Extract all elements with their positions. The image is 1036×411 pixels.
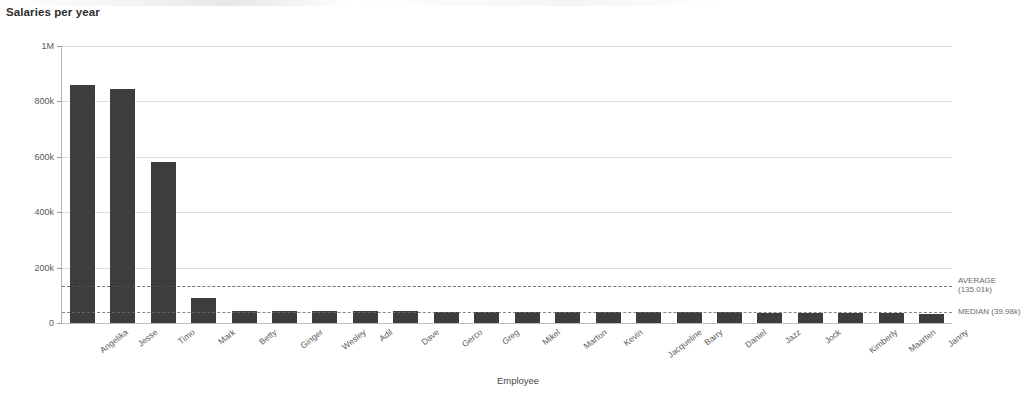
- x-axis-category-label: Maarten: [907, 327, 938, 354]
- x-axis-category-label: Mikel: [540, 327, 562, 347]
- gridline: [62, 46, 952, 47]
- y-axis-tick-label: 0: [18, 318, 54, 328]
- x-axis-category-label: Daniel: [743, 327, 768, 350]
- gridline: [62, 101, 952, 102]
- chart-plot-area: [62, 46, 952, 323]
- x-axis-category-label: Kevin: [621, 327, 644, 348]
- reference-label-text: AVERAGE: [958, 276, 996, 286]
- x-axis-category-label: Greg: [500, 327, 521, 347]
- x-axis-category-label: Jesse: [136, 327, 160, 349]
- bar[interactable]: [110, 89, 135, 323]
- bar[interactable]: [474, 312, 499, 323]
- x-axis-category-label: Barry: [702, 327, 724, 347]
- reference-line-median: [62, 312, 952, 313]
- x-axis-category-label: Angelika: [98, 327, 130, 355]
- y-axis-tick-mark: [57, 268, 62, 269]
- bar[interactable]: [798, 313, 823, 323]
- bar[interactable]: [515, 312, 540, 323]
- y-axis-tick-label: 400k: [18, 207, 54, 217]
- y-axis-tick-mark: [57, 323, 62, 324]
- bar[interactable]: [151, 162, 176, 323]
- x-axis-category-label: Adil: [377, 327, 394, 344]
- x-axis-category-label: Marton: [582, 327, 609, 351]
- x-axis-category-label: Wesley: [340, 327, 368, 352]
- reference-line-label-median: MEDIAN (39.98k): [958, 307, 1021, 317]
- x-axis-category-label: Betty: [257, 327, 278, 347]
- reference-label-text: MEDIAN (39.98k): [958, 307, 1021, 317]
- gridline: [62, 323, 952, 324]
- bar[interactable]: [70, 85, 95, 323]
- gridline: [62, 212, 952, 213]
- bar[interactable]: [677, 312, 702, 323]
- x-axis-category-label: Jacqueline: [666, 327, 704, 360]
- bar[interactable]: [757, 313, 782, 323]
- x-axis-category-label: Ginger: [299, 327, 325, 351]
- y-axis-tick-label: 1M: [18, 41, 54, 51]
- bar[interactable]: [434, 312, 459, 323]
- bar[interactable]: [717, 312, 742, 323]
- y-axis-tick-mark: [57, 46, 62, 47]
- reference-line-average: [62, 286, 952, 287]
- bar[interactable]: [879, 313, 904, 323]
- x-axis-category-label: Mark: [216, 327, 237, 347]
- reference-line-label-average: AVERAGE(135.01k): [958, 276, 996, 295]
- bar[interactable]: [393, 311, 418, 323]
- y-axis-tick-label: 600k: [18, 152, 54, 162]
- x-axis-category-label: Timo: [176, 327, 197, 346]
- bar[interactable]: [596, 312, 621, 323]
- x-axis-category-label: Gerco: [460, 327, 484, 349]
- x-axis-title: Employee: [0, 375, 1036, 386]
- bar[interactable]: [555, 312, 580, 323]
- y-axis-tick-label: 200k: [18, 263, 54, 273]
- bar[interactable]: [636, 312, 661, 323]
- x-axis-category-label: Jock: [823, 327, 843, 346]
- chart-plot-frame: Sum(Salary) 1M800k600k400k200k0 Angelika…: [0, 0, 1036, 411]
- bar[interactable]: [838, 313, 863, 323]
- gridline: [62, 268, 952, 269]
- reference-label-value: (135.01k): [958, 285, 996, 295]
- x-axis-category-label: Janny: [945, 327, 969, 349]
- gridline: [62, 157, 952, 158]
- y-axis-tick-mark: [57, 212, 62, 213]
- y-axis-tick-mark: [57, 157, 62, 158]
- bar[interactable]: [191, 298, 216, 323]
- x-axis-category-label: Jazz: [782, 327, 802, 346]
- x-axis-category-label: Kimberly: [867, 327, 899, 355]
- y-axis-tick-label: 800k: [18, 96, 54, 106]
- x-axis-category-label: Dave: [419, 327, 441, 347]
- y-axis-tick-mark: [57, 101, 62, 102]
- bar[interactable]: [919, 314, 944, 323]
